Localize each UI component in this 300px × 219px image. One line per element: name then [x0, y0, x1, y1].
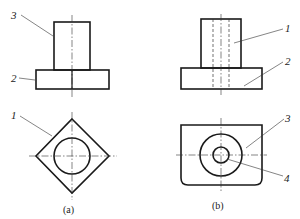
a-leader-2 [19, 78, 35, 80]
figure-a-front-view: 3 2 [10, 9, 109, 98]
a-label-2: 2 [11, 72, 17, 84]
drawing-svg: 3 2 1 (a) 1 2 3 4 (b) [0, 0, 300, 219]
b-leader-3 [246, 119, 284, 148]
technical-drawing: 3 2 1 (a) 1 2 3 4 (b) [0, 0, 300, 219]
b-label-2: 2 [285, 55, 291, 67]
a-caption: (a) [63, 204, 74, 216]
figure-b-top-view: 3 4 (b) [176, 112, 291, 212]
b-leader-2 [244, 62, 283, 86]
b-leader-4 [227, 159, 283, 176]
a-leader-3 [21, 15, 53, 36]
figure-a-top-view: 1 (a) [11, 109, 117, 216]
b-base-block [181, 68, 262, 89]
b-label-4: 4 [284, 172, 290, 184]
a-leader-1 [20, 116, 52, 136]
figure-b-front-view: 1 2 [181, 14, 291, 95]
b-caption: (b) [212, 200, 224, 212]
a-label-3: 3 [10, 9, 17, 21]
a-label-1: 1 [11, 109, 17, 121]
b-label-1: 1 [285, 22, 291, 34]
b-label-3: 3 [284, 112, 291, 124]
